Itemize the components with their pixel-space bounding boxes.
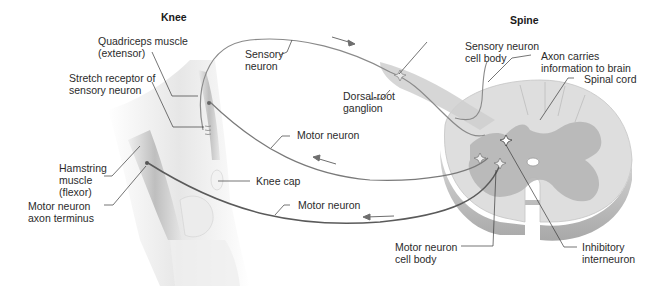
sensory-neuron-label: Sensory neuron — [245, 48, 284, 72]
sensory-neuron-path — [200, 39, 485, 136]
dorsal-root-label: Dorsal-root ganglion — [343, 90, 395, 114]
motor-neuron-upper-label: Motor neuron — [297, 129, 359, 141]
knee-cap — [211, 170, 223, 190]
motor-cell-body-label: Motor neuron cell body — [395, 241, 457, 265]
motor-neuron-lower-label: Motor neuron — [298, 199, 360, 211]
hamstring-label: Hamstring muscle (flexor) — [59, 162, 107, 198]
arrow-right-icon — [332, 37, 355, 46]
axon-to-brain-label: Axon carries information to brain — [541, 50, 631, 74]
arrow-left-icon — [313, 155, 336, 164]
knee-cap-label: Knee cap — [256, 175, 300, 187]
hamstring-terminus-dot — [145, 161, 149, 165]
motor-terminus-label: Motor neuron axon terminus — [28, 200, 94, 224]
knee-title: Knee — [161, 11, 187, 23]
quadriceps-terminus-dot — [207, 101, 211, 105]
arrow-left-icon — [363, 214, 394, 220]
spinal-cord-label: Spinal cord — [584, 73, 637, 85]
spine-title: Spine — [510, 14, 539, 26]
sensory-cell-body-label: Sensory neuron cell body — [465, 40, 539, 64]
inhibitory-interneuron-label: Inhibitory interneuron — [582, 241, 635, 265]
stretch-receptor-label: Stretch receptor of sensory neuron — [69, 72, 155, 96]
quadriceps-label: Quadriceps muscle (extensor) — [98, 35, 188, 59]
